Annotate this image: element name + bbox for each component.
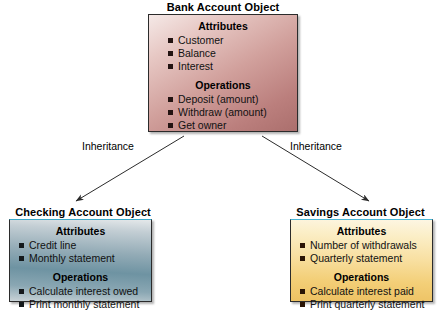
list-item-label: Calculate interest owed <box>29 285 138 298</box>
operation-list: Calculate interest owed Print monthly st… <box>10 285 151 311</box>
square-bullet-icon <box>19 256 24 261</box>
class-node-savings-account[interactable]: Savings Account Object Attributes Number… <box>281 206 440 302</box>
square-bullet-icon <box>168 123 173 128</box>
edge-label-inheritance-right: Inheritance <box>290 140 342 152</box>
class-node-checking-account[interactable]: Checking Account Object Attributes Credi… <box>0 206 166 302</box>
list-item: Print quarterly statement <box>300 298 432 311</box>
operation-list: Deposit (amount) Withdraw (amount) Get o… <box>149 93 297 132</box>
diagram-canvas: Bank Account Object Attributes Customer … <box>0 0 440 320</box>
list-item: Customer <box>168 34 297 47</box>
section-heading-operations: Operations <box>149 78 297 92</box>
list-item: Number of withdrawals <box>300 239 432 252</box>
square-bullet-icon <box>300 289 305 294</box>
section-heading-attributes: Attributes <box>149 19 297 33</box>
list-item-label: Quarterly statement <box>310 252 402 265</box>
list-item: Calculate interest paid <box>300 285 432 298</box>
list-item-label: Get owner <box>178 119 226 132</box>
list-item-label: Credit line <box>29 239 76 252</box>
operation-list: Calculate interest paid Print quarterly … <box>291 285 432 311</box>
list-item: Deposit (amount) <box>168 93 297 106</box>
class-node-title: Checking Account Object <box>0 206 166 219</box>
list-item-label: Deposit (amount) <box>178 93 259 106</box>
list-item-label: Calculate interest paid <box>310 285 414 298</box>
square-bullet-icon <box>19 243 24 248</box>
section-heading-operations: Operations <box>291 270 432 284</box>
list-item: Credit line <box>19 239 151 252</box>
section-heading-attributes: Attributes <box>10 224 151 238</box>
list-item: Calculate interest owed <box>19 285 151 298</box>
list-item: Quarterly statement <box>300 252 432 265</box>
edge-label-inheritance-left: Inheritance <box>82 140 134 152</box>
square-bullet-icon <box>168 38 173 43</box>
list-item-label: Monthly statement <box>29 252 115 265</box>
square-bullet-icon <box>168 51 173 56</box>
class-node-body: Attributes Customer Balance Interest Ope… <box>148 14 298 132</box>
square-bullet-icon <box>300 256 305 261</box>
section-heading-attributes: Attributes <box>291 224 432 238</box>
class-node-title: Bank Account Object <box>132 1 314 14</box>
attribute-list: Credit line Monthly statement <box>10 239 151 265</box>
class-node-title: Savings Account Object <box>281 206 440 219</box>
list-item-label: Interest <box>178 60 213 73</box>
square-bullet-icon <box>19 302 24 307</box>
square-bullet-icon <box>300 243 305 248</box>
class-node-bank-account[interactable]: Bank Account Object Attributes Customer … <box>132 1 314 132</box>
list-item: Balance <box>168 47 297 60</box>
list-item: Monthly statement <box>19 252 151 265</box>
square-bullet-icon <box>19 289 24 294</box>
list-item-label: Print monthly statement <box>29 298 139 311</box>
list-item-label: Withdraw (amount) <box>178 106 267 119</box>
section-heading-operations: Operations <box>10 270 151 284</box>
square-bullet-icon <box>168 110 173 115</box>
class-node-body: Attributes Number of withdrawals Quarter… <box>290 219 433 302</box>
class-node-body: Attributes Credit line Monthly statement… <box>9 219 152 302</box>
list-item-label: Balance <box>178 47 216 60</box>
list-item-label: Customer <box>178 34 224 47</box>
square-bullet-icon <box>300 302 305 307</box>
list-item-label: Print quarterly statement <box>310 298 424 311</box>
square-bullet-icon <box>168 64 173 69</box>
square-bullet-icon <box>168 97 173 102</box>
list-item: Get owner <box>168 119 297 132</box>
list-item: Withdraw (amount) <box>168 106 297 119</box>
list-item: Print monthly statement <box>19 298 151 311</box>
list-item-label: Number of withdrawals <box>310 239 417 252</box>
list-item: Interest <box>168 60 297 73</box>
attribute-list: Number of withdrawals Quarterly statemen… <box>291 239 432 265</box>
attribute-list: Customer Balance Interest <box>149 34 297 73</box>
